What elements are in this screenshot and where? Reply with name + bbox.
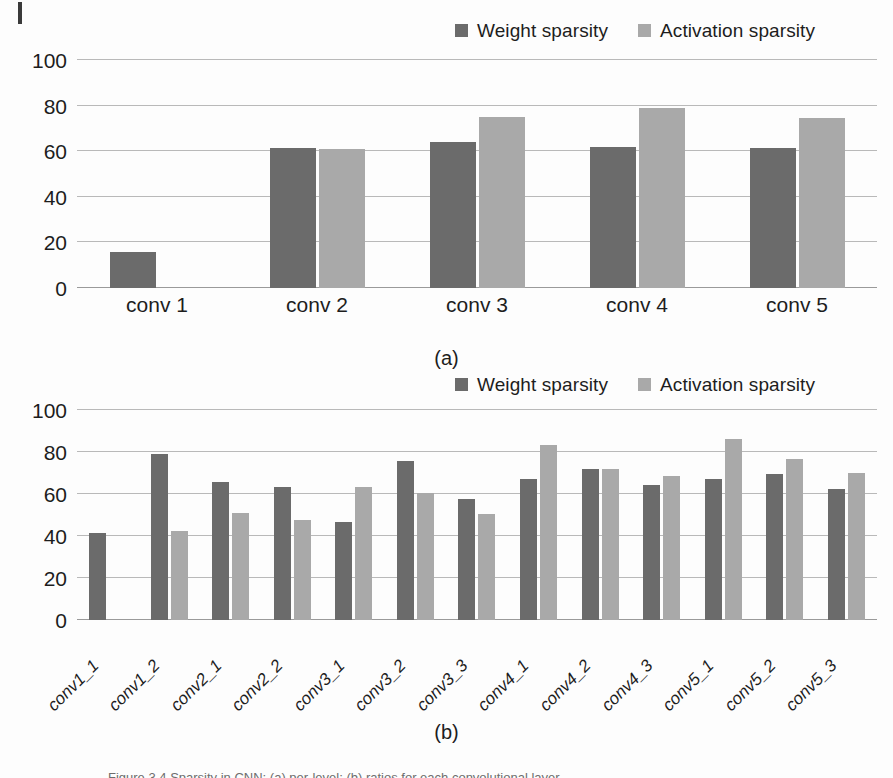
subcaption-a: (a) <box>0 348 893 368</box>
bar-weight-sparsity-conv-4 <box>590 147 636 288</box>
legend-item-weight-sparsity: Weight sparsity <box>455 21 608 40</box>
bar-activation-sparsity-conv5_2 <box>786 459 803 620</box>
y-axis-tick-20: 20 <box>44 568 67 589</box>
subcaption-b: (b) <box>0 722 893 742</box>
x-axis-label-conv-4: conv 4 <box>557 294 717 315</box>
legend-item-weight-sparsity-b: Weight sparsity <box>455 375 608 394</box>
legend-label-activation-sparsity: Activation sparsity <box>660 21 815 40</box>
bar-weight-sparsity-conv3_2 <box>397 461 414 620</box>
bar-activation-sparsity-conv5_1 <box>725 439 742 620</box>
x-axis-label-conv-3: conv 3 <box>397 294 557 315</box>
bar-group-conv4_2 <box>569 410 631 620</box>
x-axis-label-cell-conv2_1: conv2_1 <box>200 624 262 720</box>
bar-activation-sparsity-conv3_3 <box>478 514 495 620</box>
legend-swatch-activation-sparsity <box>638 24 651 37</box>
y-axis-tick-100: 100 <box>32 400 67 421</box>
bar-group-conv5_2 <box>754 410 816 620</box>
figure-page: Weight sparsity Activation sparsity 0204… <box>0 0 893 778</box>
x-axis-labels-chart-a: conv 1conv 2conv 3conv 4conv 5 <box>77 294 877 315</box>
legend-chart-a: Weight sparsity Activation sparsity <box>455 18 885 42</box>
bar-group-conv-1 <box>77 60 237 288</box>
bar-weight-sparsity-conv2_2 <box>274 487 291 620</box>
bar-activation-sparsity-conv5_3 <box>848 473 865 620</box>
bar-group-conv3_1 <box>323 410 385 620</box>
legend-item-activation-sparsity: Activation sparsity <box>638 21 815 40</box>
bar-weight-sparsity-conv-2 <box>270 148 316 288</box>
bar-group-conv5_3 <box>815 410 877 620</box>
bar-weight-sparsity-conv4_1 <box>520 479 537 620</box>
bar-weight-sparsity-conv1_1 <box>89 533 106 620</box>
x-axis-label-cell-conv2_2: conv2_2 <box>262 624 324 720</box>
bar-activation-sparsity-conv3_2 <box>417 493 434 620</box>
bar-activation-sparsity-conv-3 <box>479 117 525 288</box>
bar-activation-sparsity-conv2_1 <box>232 513 249 620</box>
x-axis-label-cell-conv1_2: conv1_2 <box>139 624 201 720</box>
x-axis-label-conv-5: conv 5 <box>717 294 877 315</box>
chart-b: Weight sparsity Activation sparsity 0204… <box>0 372 893 630</box>
bar-weight-sparsity-conv-3 <box>430 142 476 288</box>
bar-group-conv-3 <box>397 60 557 288</box>
legend-item-activation-sparsity-b: Activation sparsity <box>638 375 815 394</box>
bar-activation-sparsity-conv2_2 <box>294 520 311 620</box>
bar-group-conv3_3 <box>446 410 508 620</box>
bar-group-conv3_2 <box>385 410 447 620</box>
y-axis-tick-20: 20 <box>44 232 67 253</box>
bar-activation-sparsity-conv-2 <box>319 149 365 288</box>
bar-weight-sparsity-conv5_1 <box>705 479 722 620</box>
plot-area-chart-b: 020406080100 <box>77 410 877 620</box>
x-axis-label-conv1_1: conv1_1 <box>44 657 101 714</box>
bar-activation-sparsity-conv3_1 <box>355 487 372 620</box>
x-axis-label-conv-1: conv 1 <box>77 294 237 315</box>
y-axis-tick-0: 0 <box>55 610 67 631</box>
bar-group-conv1_1 <box>77 410 139 620</box>
y-axis-tick-40: 40 <box>44 186 67 207</box>
bar-weight-sparsity-conv4_3 <box>643 485 660 620</box>
legend-label-weight-sparsity-b: Weight sparsity <box>477 375 608 394</box>
bar-weight-sparsity-conv-5 <box>750 148 796 288</box>
bar-weight-sparsity-conv3_1 <box>335 522 352 620</box>
bar-weight-sparsity-conv1_2 <box>151 454 168 620</box>
x-axis-label-cell-conv1_1: conv1_1 <box>77 624 139 720</box>
bar-group-conv2_1 <box>200 410 262 620</box>
bar-group-conv2_2 <box>262 410 324 620</box>
legend-label-activation-sparsity-b: Activation sparsity <box>660 375 815 394</box>
bar-group-conv-5 <box>717 60 877 288</box>
y-axis-tick-100: 100 <box>32 50 67 71</box>
plot-area-chart-a: 020406080100 <box>77 60 877 288</box>
bar-weight-sparsity-conv5_2 <box>766 474 783 620</box>
bar-activation-sparsity-conv-4 <box>639 108 685 288</box>
bar-activation-sparsity-conv4_3 <box>663 476 680 620</box>
legend-swatch-weight-sparsity <box>455 24 468 37</box>
x-axis-label-cell-conv4_1: conv4_1 <box>508 624 570 720</box>
legend-swatch-activation-sparsity-b <box>638 378 651 391</box>
bars-chart-b <box>77 410 877 620</box>
x-axis-label-conv-2: conv 2 <box>237 294 397 315</box>
x-axis-label-cell-conv4_2: conv4_2 <box>569 624 631 720</box>
bar-group-conv-2 <box>237 60 397 288</box>
y-axis-tick-60: 60 <box>44 484 67 505</box>
bar-weight-sparsity-conv5_3 <box>828 489 845 620</box>
bar-group-conv4_3 <box>631 410 693 620</box>
y-axis-tick-0: 0 <box>55 278 67 299</box>
bar-activation-sparsity-conv4_2 <box>602 469 619 620</box>
bar-group-conv-4 <box>557 60 717 288</box>
chart-a: Weight sparsity Activation sparsity 0204… <box>0 18 893 318</box>
x-axis-label-cell-conv3_2: conv3_2 <box>385 624 447 720</box>
bar-weight-sparsity-conv2_1 <box>212 482 229 620</box>
bar-weight-sparsity-conv4_2 <box>582 469 599 620</box>
y-axis-tick-40: 40 <box>44 526 67 547</box>
y-axis-tick-80: 80 <box>44 95 67 116</box>
bar-weight-sparsity-conv3_3 <box>458 499 475 620</box>
bar-group-conv4_1 <box>508 410 570 620</box>
bar-weight-sparsity-conv-1 <box>110 252 156 288</box>
x-axis-label-cell-conv5_1: conv5_1 <box>692 624 754 720</box>
bar-activation-sparsity-conv-5 <box>799 118 845 288</box>
legend-chart-b: Weight sparsity Activation sparsity <box>455 372 885 396</box>
bars-chart-a <box>77 60 877 288</box>
y-axis-tick-80: 80 <box>44 442 67 463</box>
bar-group-conv5_1 <box>692 410 754 620</box>
bar-group-conv1_2 <box>139 410 201 620</box>
figure-caption: Figure 3.4 Sparsity in CNN: (a) per-leve… <box>108 770 868 778</box>
x-axis-label-cell-conv5_3: conv5_3 <box>815 624 877 720</box>
x-axis-label-cell-conv4_3: conv4_3 <box>631 624 693 720</box>
